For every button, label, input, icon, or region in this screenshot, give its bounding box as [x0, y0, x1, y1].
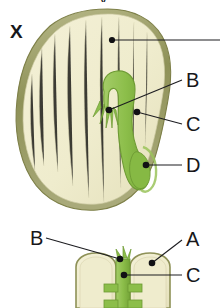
dot-top-clipped	[109, 37, 115, 43]
top-partial-label: y	[99, 0, 115, 2]
embryo-arm-right-lower	[128, 300, 142, 308]
dot-lower-a	[149, 260, 156, 267]
embryo-arm-left-lower	[104, 300, 118, 308]
dot-b	[106, 107, 113, 114]
callout-label-b-lower: B	[30, 228, 43, 248]
figure-key-x: X	[10, 22, 23, 41]
callout-label-c-upper: C	[186, 114, 200, 134]
embryo-arm-left	[104, 284, 118, 292]
dot-c	[134, 109, 141, 116]
callout-label-a-lower: A	[186, 229, 199, 249]
callout-label-d-upper: D	[186, 155, 200, 175]
callout-label-b-upper: B	[186, 70, 199, 90]
dot-d	[143, 162, 150, 169]
dot-lower-c	[121, 272, 128, 279]
dot-lower-b	[117, 256, 124, 263]
embryo-arm-right	[128, 284, 142, 292]
upper-seed-drawing	[16, 9, 170, 210]
seed-structure-figure: X y B C D B A C	[0, 0, 220, 308]
callout-label-c-lower: C	[186, 265, 200, 285]
